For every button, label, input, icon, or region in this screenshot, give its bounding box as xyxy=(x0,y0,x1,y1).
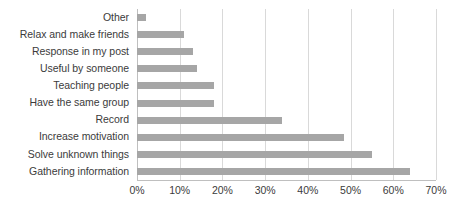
category-label: Increase motivation xyxy=(0,129,133,146)
value-tick-label: 50% xyxy=(340,184,361,196)
value-tick-label: 40% xyxy=(297,184,318,196)
bar-row xyxy=(137,163,436,180)
category-label: Solve unknown things xyxy=(0,146,133,163)
category-label: Have the same group xyxy=(0,94,133,111)
category-axis-labels: OtherRelax and make friendsResponse in m… xyxy=(0,9,133,180)
value-tick-label: 0% xyxy=(129,184,144,196)
category-label: Other xyxy=(0,9,133,26)
gridline xyxy=(436,9,437,180)
chart-plot-wrapper: OtherRelax and make friendsResponse in m… xyxy=(0,0,449,221)
bar-series xyxy=(137,9,436,180)
value-tick-label: 30% xyxy=(255,184,276,196)
category-label: Response in my post xyxy=(0,43,133,60)
value-tick-label: 70% xyxy=(425,184,446,196)
bar xyxy=(137,151,372,158)
bar xyxy=(137,168,410,175)
bar xyxy=(137,14,146,21)
category-label: Record xyxy=(0,112,133,129)
x-axis-line xyxy=(137,180,436,181)
bar-row xyxy=(137,94,436,111)
bar-row xyxy=(137,26,436,43)
bar-chart: OtherRelax and make friendsResponse in m… xyxy=(0,0,449,221)
value-tick-label: 10% xyxy=(169,184,190,196)
bar xyxy=(137,117,282,124)
bar xyxy=(137,31,184,38)
plot-area xyxy=(137,9,436,180)
bar-row xyxy=(137,146,436,163)
bar xyxy=(137,134,344,141)
bar-row xyxy=(137,9,436,26)
bar xyxy=(137,82,214,89)
value-axis-labels: 0%10%20%30%40%50%60%70% xyxy=(137,184,436,204)
bar-row xyxy=(137,77,436,94)
category-label: Relax and make friends xyxy=(0,26,133,43)
category-label: Useful by someone xyxy=(0,60,133,77)
bar-row xyxy=(137,60,436,77)
bar xyxy=(137,48,193,55)
value-tick-label: 60% xyxy=(383,184,404,196)
bar-row xyxy=(137,112,436,129)
category-label: Teaching people xyxy=(0,77,133,94)
value-tick-label: 20% xyxy=(212,184,233,196)
bar xyxy=(137,100,214,107)
bar-row xyxy=(137,129,436,146)
bar xyxy=(137,65,197,72)
category-label: Gathering information xyxy=(0,163,133,180)
bar-row xyxy=(137,43,436,60)
